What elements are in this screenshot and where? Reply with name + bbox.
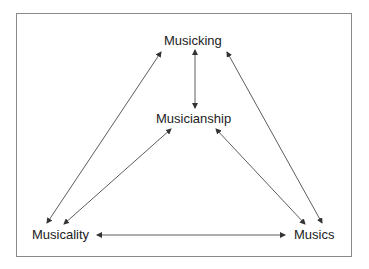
edge-musicking-musicality [47, 52, 161, 223]
edge-musicianship-musics [216, 129, 305, 224]
node-musicality: Musicality [32, 227, 89, 242]
edge-musicking-musics [227, 52, 322, 223]
node-musicianship: Musicianship [156, 111, 231, 126]
node-musics: Musics [294, 227, 334, 242]
edge-musicianship-musicality [64, 129, 171, 224]
node-musicking: Musicking [164, 33, 222, 48]
